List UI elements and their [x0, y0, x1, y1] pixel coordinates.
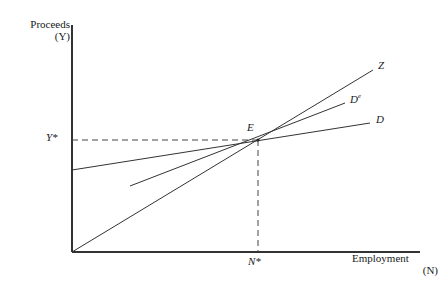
curve-label-d-expected-superscript: e	[358, 92, 361, 100]
curve-d	[72, 123, 370, 170]
y-axis-title-text: Proceeds	[30, 18, 70, 30]
curve-label-d-expected: De	[350, 93, 361, 105]
n-star-tick-label: N*	[248, 255, 261, 267]
curve-label-d-expected-text: D	[350, 93, 358, 105]
y-axis-title: Proceeds (Y)	[4, 18, 70, 43]
equilibrium-label: E	[247, 121, 254, 133]
y-star-tick-label: Y*	[46, 131, 58, 143]
curve-z	[72, 70, 373, 252]
curve-label-d: D	[376, 113, 384, 125]
curve-label-z-text: Z	[378, 59, 384, 71]
plot-canvas	[0, 0, 441, 291]
curve-label-z: Z	[378, 59, 384, 71]
x-axis-unit: (N)	[352, 264, 440, 276]
curve-d-expected	[130, 103, 345, 186]
x-axis-title-text: Employment	[352, 252, 409, 264]
y-axis-unit: (Y)	[4, 30, 70, 42]
x-axis-title: Employment (N)	[352, 252, 440, 277]
effective-demand-diagram: Proceeds (Y) Employment (N) Z De D E Y* …	[0, 0, 441, 291]
curve-label-d-text: D	[376, 113, 384, 125]
equilibrium-point	[256, 138, 259, 141]
